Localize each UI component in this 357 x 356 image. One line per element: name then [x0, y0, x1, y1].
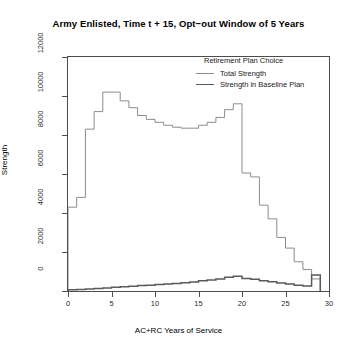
legend-swatch-baseline-plan [196, 84, 214, 85]
y-tick-mark [62, 96, 67, 97]
legend-item-total-strength: Total Strength [196, 69, 304, 78]
x-axis-title: AC+RC Years of Service [0, 326, 357, 335]
legend: Retirement Plan Choice Total Strength St… [196, 56, 304, 91]
x-tick-label: 15 [184, 299, 214, 308]
y-axis-title: Strength [0, 115, 9, 205]
y-tick-mark [62, 213, 67, 214]
page-title: Army Enlisted, Time t + 15, Opt−out Wind… [0, 18, 357, 29]
legend-label-baseline-plan: Strength in Baseline Plan [220, 80, 304, 89]
x-tick-label: 25 [271, 299, 301, 308]
x-tick-mark [68, 292, 69, 297]
y-tick-mark [62, 291, 67, 292]
series-line-total-strength [68, 92, 320, 291]
x-tick-label: 0 [53, 299, 83, 308]
x-tick-label: 30 [314, 299, 344, 308]
y-tick-label: 8000 [36, 111, 45, 149]
y-tick-label: 12000 [36, 33, 45, 71]
legend-label-total-strength: Total Strength [220, 69, 266, 78]
x-tick-mark [112, 292, 113, 297]
series-line-baseline-plan [68, 275, 320, 291]
x-tick-mark [199, 292, 200, 297]
y-tick-label: 6000 [36, 150, 45, 188]
plot-area [67, 56, 330, 292]
y-tick-label: 0 [36, 267, 45, 305]
x-tick-mark [329, 292, 330, 297]
x-tick-mark [286, 292, 287, 297]
x-tick-label: 20 [227, 299, 257, 308]
y-tick-label: 2000 [36, 228, 45, 266]
plot-svg [68, 57, 329, 291]
x-tick-label: 10 [140, 299, 170, 308]
x-tick-mark [155, 292, 156, 297]
y-tick-mark [62, 174, 67, 175]
y-tick-label: 4000 [36, 189, 45, 227]
legend-swatch-total-strength [196, 73, 214, 74]
y-tick-mark [62, 252, 67, 253]
y-tick-mark [62, 135, 67, 136]
x-tick-mark [242, 292, 243, 297]
chart-root: Army Enlisted, Time t + 15, Opt−out Wind… [0, 0, 357, 356]
y-tick-label: 10000 [36, 72, 45, 110]
legend-item-baseline-plan: Strength in Baseline Plan [196, 80, 304, 89]
legend-title: Retirement Plan Choice [204, 56, 304, 65]
x-tick-label: 5 [97, 299, 127, 308]
y-tick-mark [62, 57, 67, 58]
